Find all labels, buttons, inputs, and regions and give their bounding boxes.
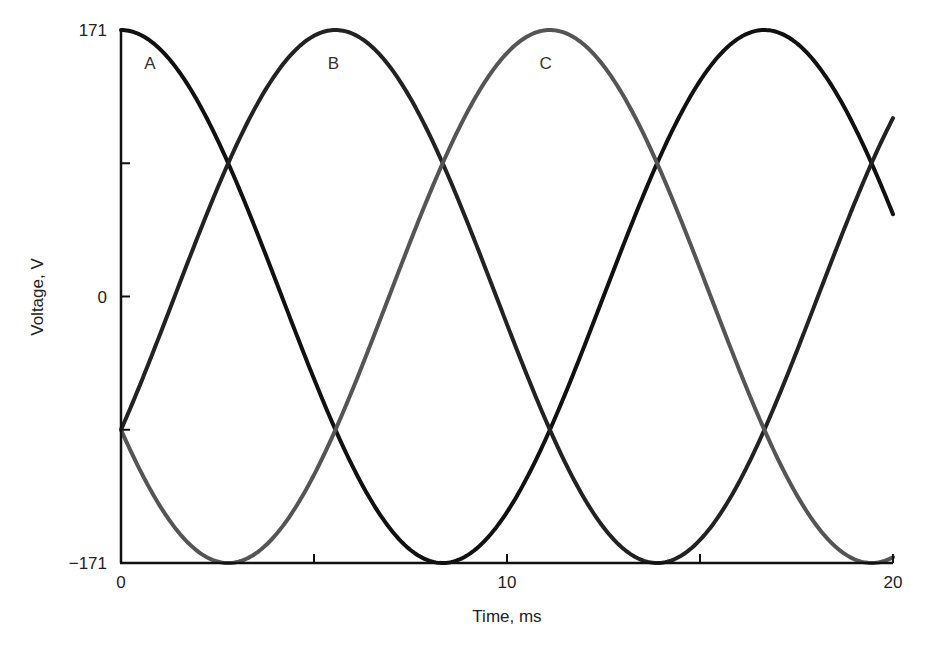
- series-curve-b: [121, 30, 893, 563]
- plot-series: [121, 30, 893, 563]
- series-label-a: A: [144, 54, 156, 73]
- y-tick-label: 171: [79, 21, 107, 40]
- series-curve-c: [121, 30, 893, 563]
- x-axis-title: Time, ms: [472, 607, 541, 626]
- x-tick-label: 20: [884, 573, 903, 592]
- x-tick-label: 0: [116, 573, 125, 592]
- y-tick-label: 0: [98, 288, 107, 307]
- x-tick-label: 10: [498, 573, 517, 592]
- y-axis-title: Voltage, V: [28, 258, 47, 336]
- y-tick-label: −171: [69, 554, 107, 573]
- x-ticks: 01020: [116, 554, 902, 592]
- axes: 01020 −1710171: [69, 21, 903, 592]
- three-phase-voltage-chart: 01020 −1710171 Time, ms Voltage, V ABC: [0, 0, 927, 646]
- series-label-b: B: [328, 54, 339, 73]
- series-label-c: C: [539, 54, 551, 73]
- series-labels: ABC: [144, 54, 551, 73]
- series-curve-a: [121, 30, 893, 563]
